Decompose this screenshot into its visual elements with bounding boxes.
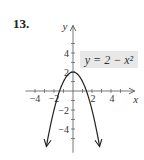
- parabola-chart: −4−22442−2−4xy y = 2 − x²: [0, 0, 144, 160]
- curve-right-branch: [73, 72, 100, 146]
- equation-label: y = 2 − x²: [84, 53, 134, 67]
- y-tick-label: 4: [64, 48, 69, 59]
- x-tick-label: 4: [110, 93, 115, 104]
- y-axis-label: y: [62, 20, 68, 32]
- x-axis-label: x: [132, 93, 138, 105]
- x-tick-label: 2: [91, 93, 96, 104]
- y-tick-label: −4: [58, 124, 69, 135]
- y-tick-label: −2: [58, 105, 69, 116]
- x-tick-label: −4: [30, 93, 41, 104]
